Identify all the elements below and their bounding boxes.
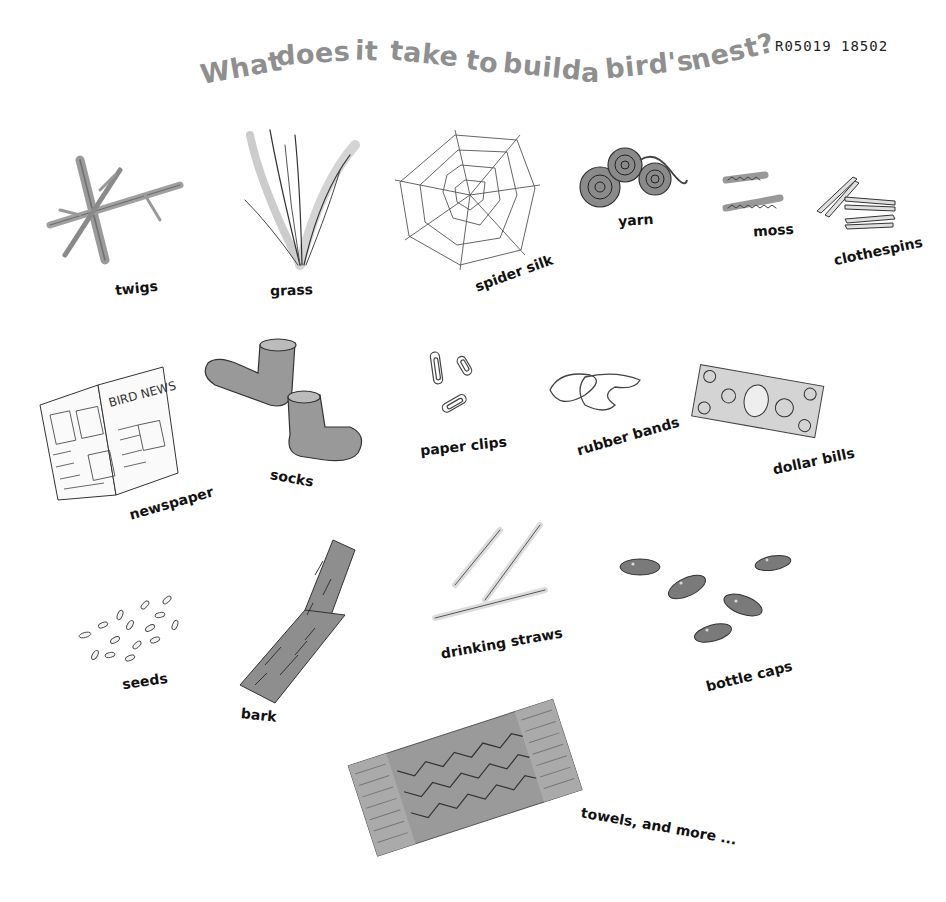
- bark-icon: [235, 535, 355, 705]
- grass-icon: [240, 125, 360, 275]
- item-label: socks: [269, 466, 315, 489]
- title-word: take: [389, 34, 461, 72]
- title-word: build: [502, 47, 584, 86]
- twigs-icon: [45, 160, 185, 270]
- item-label: clothespins: [832, 234, 924, 268]
- title-word: it: [354, 35, 378, 67]
- socks-icon: [200, 335, 370, 465]
- title-word: to: [464, 44, 501, 80]
- yarn-icon: [575, 145, 690, 215]
- dollar-bill-icon: [690, 365, 825, 440]
- towel-icon: [350, 700, 585, 870]
- item-label: moss: [752, 221, 794, 240]
- item-label: grass: [270, 281, 314, 298]
- item-label: drinking straws: [440, 624, 564, 661]
- spider-web-icon: [395, 130, 545, 270]
- moss-icon: [720, 170, 790, 220]
- item-label: yarn: [617, 211, 653, 229]
- title-word: bird's: [604, 44, 695, 84]
- item-label: paper clips: [419, 433, 507, 458]
- rubber-bands-icon: [545, 365, 645, 415]
- clothespins-icon: [815, 175, 900, 235]
- item-label: twigs: [114, 278, 158, 298]
- item-label: towels, and more ...: [580, 804, 738, 847]
- title-word: nest?: [688, 27, 777, 76]
- product-code: R05019 18502: [775, 38, 888, 54]
- item-label: bottle caps: [704, 658, 794, 695]
- title-word: does: [275, 35, 351, 71]
- title-word: a: [581, 57, 600, 88]
- bottle-caps-icon: [615, 555, 790, 655]
- paper-clips-icon: [420, 350, 490, 420]
- item-label: seeds: [121, 670, 168, 692]
- drinking-straws-icon: [430, 520, 550, 620]
- title-word: What: [198, 45, 284, 90]
- item-label: dollar bills: [771, 445, 856, 478]
- seeds-icon: [75, 590, 185, 670]
- item-label: rubber bands: [575, 414, 681, 459]
- item-label: bark: [240, 705, 277, 725]
- newspaper-icon: BIRD NEWS: [38, 355, 178, 500]
